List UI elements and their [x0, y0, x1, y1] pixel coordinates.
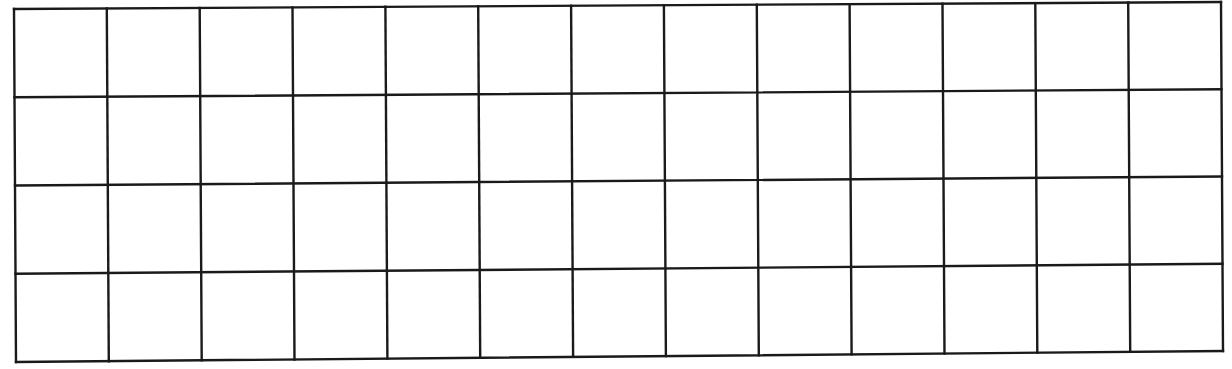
horizontal-grid-line — [16, 264, 1223, 274]
horizontal-grid-line — [15, 89, 1222, 97]
grid-lines — [14, 2, 1223, 362]
empty-grid-diagram — [0, 0, 1232, 369]
horizontal-grid-line — [15, 177, 1222, 186]
horizontal-grid-line — [14, 2, 1221, 9]
horizontal-grid-line — [16, 351, 1223, 362]
